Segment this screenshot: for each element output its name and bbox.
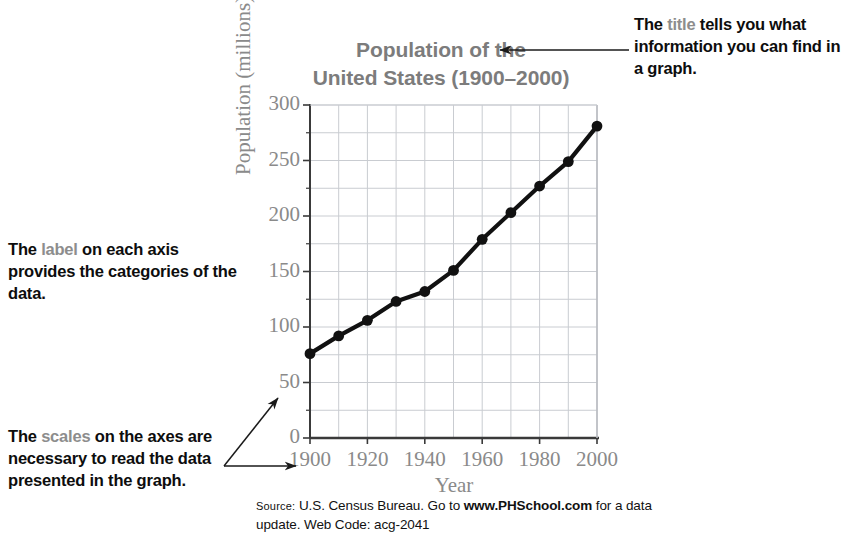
chart-svg: [0, 0, 846, 553]
chart-plot-area: [0, 0, 846, 553]
source-text-before: U.S. Census Bureau. Go to: [295, 498, 463, 513]
source-note: Source: U.S. Census Bureau. Go to www.PH…: [256, 496, 676, 534]
source-label: Source:: [256, 500, 295, 512]
source-link[interactable]: www.PHSchool.com: [464, 498, 592, 513]
worksheet-page: The title tells you what information you…: [0, 0, 846, 553]
